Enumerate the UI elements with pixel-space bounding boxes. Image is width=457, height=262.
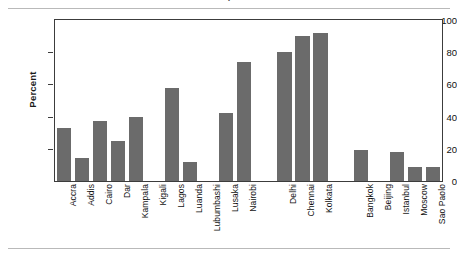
- figure-title: Access to Improved Water: [0, 0, 457, 2]
- x-tick-label: Lusaka: [230, 184, 240, 212]
- x-tick-label: Moscow: [419, 184, 429, 216]
- bar: [354, 150, 368, 181]
- x-tick-label: Nairobi: [248, 184, 258, 212]
- top-divider-rule: [8, 8, 450, 9]
- x-tick-label: Accra: [68, 184, 78, 206]
- bar: [277, 52, 291, 181]
- x-tick-label: Lagos: [176, 184, 186, 208]
- x-tick-label: Dar: [122, 184, 132, 198]
- x-tick-label: Beijing: [383, 184, 393, 210]
- bar: [295, 36, 309, 181]
- bar: [219, 113, 233, 181]
- bottom-divider-rule: [8, 248, 450, 249]
- x-tick-label: Sao Paolo: [437, 184, 447, 224]
- bar: [183, 162, 197, 181]
- bar: [426, 167, 440, 181]
- bar: [93, 121, 107, 181]
- bar: [408, 167, 422, 181]
- x-tick-label: Bangkok: [365, 184, 375, 218]
- x-tick-label: Lubumbashi: [212, 184, 222, 231]
- x-tick-label: Luanda: [194, 184, 204, 213]
- y-tick-mark: [48, 84, 53, 85]
- x-tick-label: Addis: [86, 184, 96, 206]
- bar-series: [55, 20, 442, 181]
- bar: [165, 88, 179, 181]
- bar: [111, 141, 125, 181]
- x-tick-label: Cairo: [104, 184, 114, 205]
- bar: [313, 33, 327, 181]
- x-tick-label: Kolkata: [324, 184, 334, 213]
- bar: [390, 152, 404, 181]
- y-tick-mark: [48, 149, 53, 150]
- x-tick-label: Kampala: [140, 184, 150, 218]
- y-tick-mark: [48, 52, 53, 53]
- x-tick-label: Kigali: [158, 184, 168, 205]
- x-tick-label: Chennai: [306, 184, 316, 216]
- bar: [57, 128, 71, 181]
- x-axis-labels: AccraAddisCairoDarKampalaKigaliLagosLuan…: [55, 184, 442, 246]
- bar-chart: Percent 020406080100 AccraAddisCairoDarK…: [0, 10, 457, 246]
- bar: [237, 62, 251, 181]
- bar: [129, 117, 143, 181]
- y-axis-title: Percent: [27, 60, 38, 120]
- x-tick-label: Istanbul: [401, 184, 411, 215]
- y-tick-mark: [48, 117, 53, 118]
- bar: [75, 158, 89, 181]
- x-tick-label: Delhi: [288, 184, 298, 204]
